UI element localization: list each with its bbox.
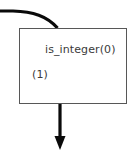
node-primary-label: is_integer(0) [45, 43, 116, 56]
node-secondary-label: (1) [32, 68, 48, 81]
diagram-canvas: is_integer(0) (1) [0, 0, 135, 160]
outgoing-arrowhead-icon [55, 136, 66, 150]
incoming-curved-edge [0, 11, 58, 28]
process-node[interactable]: is_integer(0) (1) [19, 28, 127, 104]
